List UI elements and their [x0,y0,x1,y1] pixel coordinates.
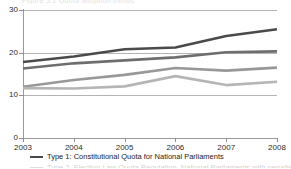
line-chart-figure: Figure 3.1 Quota adoption trends 0102030… [0,0,291,168]
y-tick-label: 20 [9,49,18,57]
x-tick-mark [23,138,24,142]
x-tick-mark [226,138,227,142]
legend-label: Type 1: Constitutional Quota for Nationa… [47,152,224,161]
x-tick-label: 2008 [261,144,291,152]
legend-swatch-icon [30,156,43,158]
series-line [23,29,277,62]
series-lines [23,10,277,138]
x-tick-mark [74,138,75,142]
plot-area [23,10,277,138]
x-tick-label: 2003 [7,144,39,152]
x-tick-label: 2005 [109,144,141,152]
legend-item: Type 1: Constitutional Quota for Nationa… [30,152,291,161]
clipped-header-text: Figure 3.1 Quota adoption trends [22,0,202,4]
x-tick-mark [175,138,176,142]
x-tick-mark [277,138,278,142]
x-axis-line [23,138,277,139]
x-tick-mark [125,138,126,142]
y-tick-label: 30 [9,6,18,14]
legend-swatch-icon [30,167,43,169]
x-tick-label: 2007 [210,144,242,152]
chart-legend: Type 1: Constitutional Quota for Nationa… [30,152,291,168]
x-tick-label: 2006 [159,144,191,152]
x-tick-label: 2004 [58,144,90,152]
series-line [23,51,277,68]
y-tick-label: 10 [9,91,18,99]
legend-label: Type 2: Election Law Quota Regulation, N… [47,163,291,168]
legend-item: Type 2: Election Law Quota Regulation, N… [30,163,291,168]
y-tick-label: 0 [14,134,18,142]
